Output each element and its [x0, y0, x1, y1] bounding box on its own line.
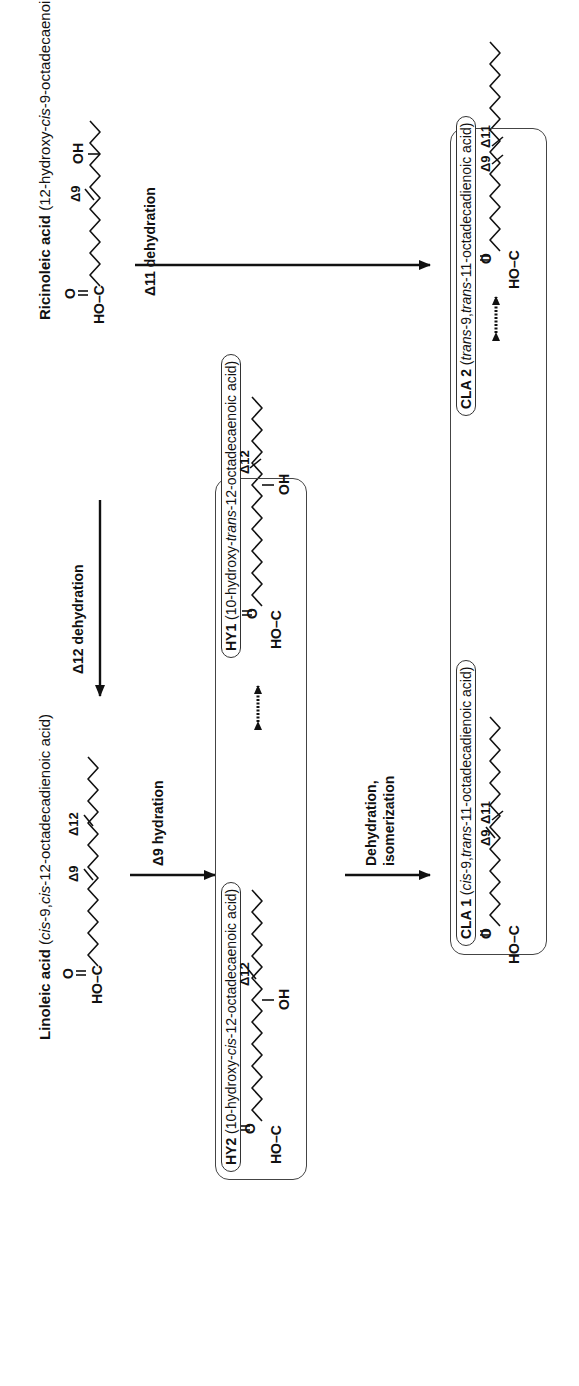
cla2-acid-group: HO–C	[506, 250, 522, 289]
ricinoleic-delta9: Δ9	[68, 185, 83, 202]
reaction-pathway-diagram: Ricinoleic acid (12-hydroxy-cis-9-octade…	[0, 0, 579, 1386]
cla2-delta11: Δ11	[478, 125, 493, 148]
cla2-delta9: Δ9	[478, 155, 493, 172]
linoleic-acid-title: Linoleic acid (cis-9,cis-12-octadecadien…	[36, 714, 53, 1040]
dehydration-isomerization-label: Dehydration, isomerization	[362, 776, 398, 866]
linoleic-delta9: Δ9	[66, 865, 81, 882]
cla1-label: CLA 1 (cis-9,trans-11-octadecadienoic ac…	[456, 660, 476, 946]
ricinoleic-carbonyl-o: O	[62, 288, 78, 299]
cla1-carbonyl-o: O	[478, 928, 494, 939]
linoleic-delta12: Δ12	[66, 812, 81, 836]
hy1-carbonyl-o: O	[244, 608, 260, 619]
cla2-label: CLA 2 (trans-9,trans-11-octadecadienoic …	[456, 116, 476, 416]
hy2-label: HY2 (10-hydroxy-cis-12-octadecaenoic aci…	[221, 882, 241, 1172]
hy2-delta12: Δ12	[237, 962, 252, 986]
dehydration-label-line1: Dehydration,	[362, 776, 380, 866]
dehydration-label-line2: isomerization	[380, 776, 398, 866]
cla1-acid-group: HO–C	[506, 925, 522, 964]
linoleic-carbonyl-o: O	[60, 968, 76, 979]
d9-hydration-label: Δ9 hydration	[150, 780, 166, 866]
hy2-carbonyl-o: O	[242, 1123, 258, 1134]
hy1-label: HY1 (10-hydroxy-trans-12-octadecaenoic a…	[221, 354, 241, 658]
hy2-oh: OH	[276, 989, 292, 1010]
cla2-carbonyl-o: O	[478, 253, 494, 264]
cla1-delta11: Δ11	[478, 801, 493, 824]
d12-dehydration-label: Δ12 dehydration	[70, 564, 86, 674]
ricinoleic-oh: OH	[70, 143, 86, 164]
hy1-delta12: Δ12	[237, 450, 252, 474]
d11-dehydration-label: Δ11 dehydration	[142, 187, 158, 296]
hy2-acid-group: HO–C	[268, 1125, 284, 1164]
ricinoleic-acid-group: HO–C	[91, 285, 107, 324]
ricinoleic-acid-title: Ricinoleic acid (12-hydroxy-cis-9-octade…	[36, 0, 53, 320]
hy1-acid-group: HO–C	[268, 610, 284, 649]
hy1-oh: OH	[276, 474, 292, 495]
linoleic-acid-group: HO–C	[89, 965, 105, 1004]
cla1-delta9: Δ9	[478, 829, 493, 846]
